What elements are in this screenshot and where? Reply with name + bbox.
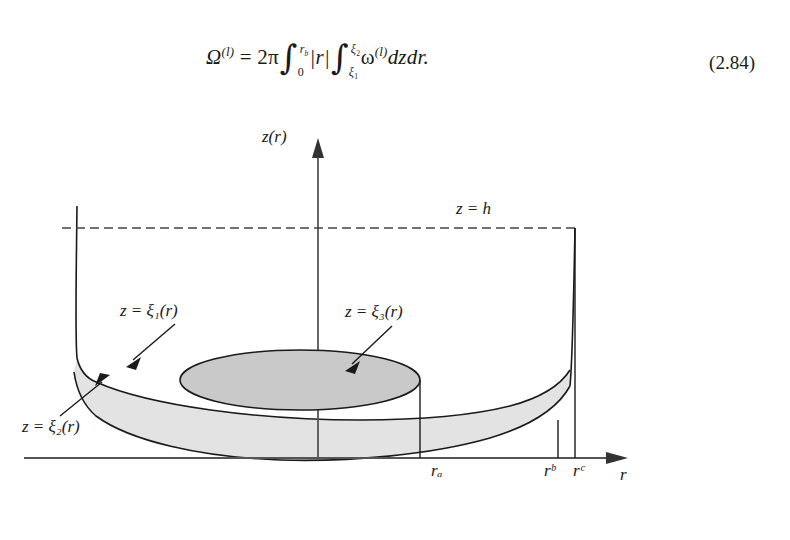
label-curve-xi2: z = ξ₂(r)	[22, 417, 80, 437]
outer-integral-upper: rb	[300, 42, 309, 58]
omega-capital-superscript: (l)	[221, 44, 234, 59]
equation-number: (2.84)	[709, 52, 755, 74]
coefficient-two-pi: 2π	[257, 45, 279, 69]
inner-integral-sign: ∫	[331, 37, 349, 77]
outer-integral-lower: 0	[298, 65, 304, 80]
outer-integral-sign: ∫	[280, 37, 298, 77]
figure-diagram: z(r) z = h z = ξ₁(r) z = ξ₃(r) z = ξ₂(r)…	[0, 86, 790, 540]
right-wall-curve	[570, 228, 575, 386]
page-root: Ω(l) = 2π∫rb0 |r|∫ξ2ξ1 ω(l)dzdr. (2.84)	[0, 0, 790, 540]
omega-capital: Ω	[206, 45, 221, 69]
tick-label-rc: rᶜ	[573, 461, 584, 481]
equation-expression: Ω(l) = 2π∫rb0 |r|∫ξ2ξ1 ω(l)dzdr.	[206, 32, 429, 72]
tick-label-ra: rₐ	[431, 461, 443, 481]
label-curve-xi3: z = ξ₃(r)	[345, 302, 403, 322]
leader-line-xi1	[133, 324, 175, 360]
label-z-equals-h: z = h	[456, 199, 491, 219]
axis-horizontal-arrowhead	[606, 452, 628, 464]
label-curve-xi1: z = ξ₁(r)	[120, 301, 178, 321]
axis-label-r: r	[620, 465, 627, 485]
inner-integral-lower: ξ1	[349, 65, 358, 81]
omega-lowercase-superscript: (l)	[375, 44, 388, 59]
inner-integral-upper: ξ2	[351, 42, 360, 58]
axis-vertical-arrowhead	[312, 138, 324, 158]
differentials: dzdr.	[388, 45, 429, 69]
equals-sign: =	[240, 45, 252, 69]
integrand-abs-r: |r|	[310, 45, 330, 69]
axis-label-z: z(r)	[262, 127, 287, 147]
omega-lowercase: ω	[361, 45, 375, 69]
inner-ellipse-xi3	[180, 350, 420, 410]
tick-label-rb: rᵇ	[544, 461, 555, 481]
equation-block: Ω(l) = 2π∫rb0 |r|∫ξ2ξ1 ω(l)dzdr. (2.84)	[0, 18, 790, 80]
